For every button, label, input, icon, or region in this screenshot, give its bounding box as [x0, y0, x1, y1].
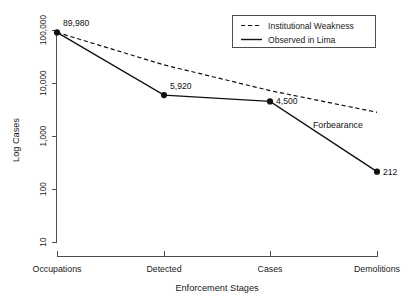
- forbearance-annotation: Forbearance: [313, 120, 363, 130]
- x-axis: Occupations Detected Cases Demolitions E…: [33, 251, 401, 293]
- series-observed-in-lima: [54, 29, 380, 174]
- y-tick-label-100: 100: [38, 182, 48, 196]
- data-point-cases: [267, 98, 273, 104]
- y-axis: 100,000 10,000 1,000 100 10 Log Cases: [11, 15, 57, 247]
- data-label-demolitions: 212: [383, 167, 398, 177]
- x-tick-label-cases: Cases: [258, 264, 284, 274]
- legend-label-institutional-weakness: Institutional Weakness: [268, 21, 354, 31]
- chart-legend: Institutional Weakness Observed in Lima: [233, 16, 376, 48]
- x-tick-label-demolitions: Demolitions: [354, 264, 401, 274]
- y-axis-title: Log Cases: [11, 118, 21, 162]
- legend-label-observed-in-lima: Observed in Lima: [268, 35, 336, 45]
- data-label-detected: 5,920: [170, 81, 192, 91]
- x-axis-title: Enforcement Stages: [175, 283, 259, 293]
- x-tick-label-detected: Detected: [146, 264, 181, 274]
- data-point-occupations: [54, 29, 60, 35]
- x-tick-label-occupations: Occupations: [33, 264, 82, 274]
- log-cases-line-chart: 100,000 10,000 1,000 100 10 Log Cases Oc…: [0, 0, 415, 305]
- data-label-occupations: 89,980: [63, 18, 90, 28]
- y-tick-label-10: 10: [38, 237, 48, 247]
- data-label-cases: 4,500: [276, 96, 298, 106]
- data-point-detected: [161, 92, 167, 98]
- data-point-demolitions: [374, 169, 380, 175]
- chart-container: 100,000 10,000 1,000 100 10 Log Cases Oc…: [0, 0, 415, 305]
- y-tick-label-100000: 100,000: [38, 15, 48, 45]
- y-tick-label-1000: 1,000: [38, 125, 48, 146]
- y-tick-label-10000: 10,000: [38, 70, 48, 96]
